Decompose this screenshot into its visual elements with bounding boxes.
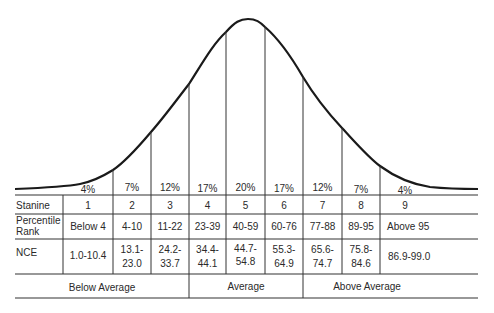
percent-label: 4%: [380, 185, 430, 196]
nce-cell: 65.6-74.7: [303, 244, 342, 269]
row-header-percentile-line1: Percentile: [16, 215, 60, 226]
nce-cell: 34.4-44.1: [189, 244, 226, 269]
row-header-nce: NCE: [16, 247, 37, 258]
percentile-cell: 60-76: [265, 221, 303, 232]
nce-cell: 1.0-10.4: [63, 250, 113, 261]
group-above-average: Above Average: [303, 281, 431, 292]
nce-cell: 55.3-64.9: [265, 244, 303, 269]
percent-label: 7%: [113, 182, 151, 193]
stanine-cell: 7: [303, 200, 342, 211]
stanine-cell: 8: [342, 200, 380, 211]
row-header-percentile-rank: Percentile Rank: [16, 215, 60, 237]
nce-line2: 44.1: [189, 258, 226, 269]
stanine-cell: 5: [226, 200, 265, 211]
stanine-cell: 4: [189, 200, 226, 211]
nce-line2: 84.6: [342, 258, 380, 269]
percentile-cell: 23-39: [189, 221, 226, 232]
nce-line1: 75.8-: [342, 244, 380, 255]
percent-label: 7%: [342, 184, 380, 195]
percent-label: 17%: [265, 183, 303, 194]
nce-line2: 33.7: [151, 258, 189, 269]
nce-line1: 55.3-: [265, 244, 303, 255]
percentile-cell: 11-22: [151, 221, 189, 232]
normal-curve: [15, 19, 478, 189]
percentile-cell: Below 4: [63, 221, 113, 232]
nce-cell: 86.9-99.0: [388, 251, 430, 262]
nce-line2: 64.9: [265, 258, 303, 269]
nce-line1: 44.7-: [226, 243, 265, 254]
percent-label: 17%: [189, 183, 226, 194]
nce-line1: 24.2-: [151, 244, 189, 255]
stanine-cell: 3: [151, 200, 189, 211]
nce-cell: 75.8-84.6: [342, 244, 380, 269]
percentile-cell: Above 95: [387, 221, 429, 232]
percentile-cell: 40-59: [226, 221, 265, 232]
nce-line2: 23.0: [113, 258, 151, 269]
percentile-cell: 77-88: [303, 221, 342, 232]
percentile-cell: 4-10: [113, 221, 151, 232]
nce-line1: 34.4-: [189, 244, 226, 255]
row-header-stanine: Stanine: [16, 200, 50, 211]
percent-label: 20%: [226, 182, 265, 193]
group-average: Average: [189, 281, 303, 292]
nce-line1: 65.6-: [303, 244, 342, 255]
stanine-cell: 2: [113, 200, 151, 211]
row-header-percentile-line2: Rank: [16, 226, 60, 237]
percent-label: 12%: [151, 182, 189, 193]
nce-cell: 13.1-23.0: [113, 244, 151, 269]
stanine-cell: 9: [380, 200, 430, 211]
nce-cell: 44.7-54.8: [226, 243, 265, 267]
group-below-average: Below Average: [15, 282, 189, 293]
percent-label: 4%: [63, 184, 113, 195]
nce-line2: 74.7: [303, 258, 342, 269]
nce-cell: 24.2-33.7: [151, 244, 189, 269]
percentile-cell: 89-95: [342, 221, 380, 232]
percent-label: 12%: [303, 182, 342, 193]
nce-line1: 13.1-: [113, 244, 151, 255]
nce-line2: 54.8: [226, 256, 265, 267]
stanine-cell: 1: [63, 200, 113, 211]
stanine-cell: 6: [265, 200, 303, 211]
